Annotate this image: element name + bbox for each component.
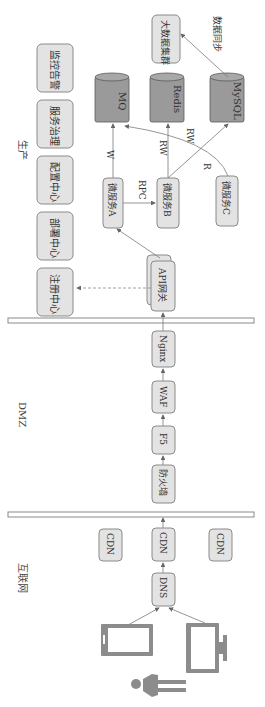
edge-label-r: R [202,163,212,170]
nginx-label: Nginx [158,335,168,362]
microservice-a-label: 微服务A [107,183,118,217]
edge-desktop-dns [169,608,205,623]
microservice-c-box[interactable]: 微服务C [216,176,238,226]
microservice-c-label: 微服务C [221,181,232,215]
api-gateway-box[interactable]: API网关 [147,255,175,311]
config-label: 配置中心 [49,162,61,202]
redis-label: Redis [172,85,183,113]
governance-box[interactable]: 服务治理 [37,100,73,148]
zone-label-production: 生产 [17,140,29,160]
cdn-left-label: CDN [105,533,115,555]
firewall-box[interactable]: 防火墙 [152,465,175,503]
mq-db[interactable]: MQ [95,73,129,122]
edge-label-rw2: RW [185,128,195,145]
redis-db[interactable]: Redis [150,73,184,122]
mobile-device-icon [101,624,153,656]
bigdata-label: 大数据集群 [160,20,171,65]
edge-mobile-dns [128,608,159,625]
dns-label: DNS [158,577,168,598]
edge-b-mysql [168,124,228,178]
deploy-label: 部署中心 [49,218,61,258]
cdn-mid-box[interactable]: CDN [152,528,175,561]
mysql-label: MySQL [232,82,243,120]
edge-gateway-a [117,229,160,258]
microservice-b-label: 微服务B [162,183,173,217]
firewall-label: 防火墙 [158,469,169,496]
nginx-box[interactable]: Nginx [152,331,175,367]
deploy-box[interactable]: 部署中心 [37,212,73,260]
microservice-a-box[interactable]: 微服务A [103,178,123,228]
microservice-b-box[interactable]: 微服务B [157,178,179,228]
edge-label-w: W [105,150,115,160]
cdn-left-box[interactable]: CDN [99,529,122,561]
dns-box[interactable]: DNS [152,573,175,606]
waf-label: WAF [158,386,168,408]
edge-label-sync: 数据同步 [212,16,223,52]
cdn-right-label: CDN [215,533,225,555]
f5-box[interactable]: F5 [152,426,175,454]
monitor-box[interactable]: 监控告警 [37,44,73,92]
monitor-label: 监控告警 [49,50,61,90]
edge-label-rw1: RW [158,140,168,157]
registry-label: 注册中心 [49,274,61,314]
bigdata-box[interactable]: 大数据集群 [152,15,180,65]
registry-box[interactable]: 注册中心 [37,268,73,316]
config-box[interactable]: 配置中心 [37,156,73,204]
boundary-wall-dmz-internet [8,512,254,517]
cdn-mid-label: CDN [158,532,168,554]
desktop-monitor-icon [186,623,227,673]
waf-box[interactable]: WAF [152,381,175,413]
zone-label-internet: 互联网 [17,563,28,593]
user-person-icon [131,674,186,697]
mysql-db[interactable]: MySQL [210,73,244,122]
zone-label-dmz: DMZ [17,402,28,427]
cdn-right-box[interactable]: CDN [209,529,232,561]
f5-label: F5 [158,433,168,445]
edge-label-rpc: RPC [137,180,147,200]
api-gateway-label: API网关 [157,267,168,302]
mq-label: MQ [117,92,128,110]
boundary-wall-production-dmz [8,318,254,323]
governance-label: 服务治理 [49,106,61,146]
